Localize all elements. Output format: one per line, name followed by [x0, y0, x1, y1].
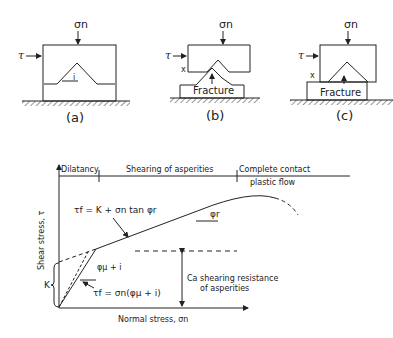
region-dilatancy: Dilatancy — [61, 165, 99, 174]
caption-c: (c) — [336, 108, 353, 123]
y-axis-label: Shear stress, τ — [37, 210, 46, 270]
caption-a: (a) — [66, 110, 84, 125]
caption-b: (b) — [206, 108, 224, 123]
k-label: K — [44, 280, 51, 290]
fracture-label: Fracture — [320, 87, 361, 98]
shear-normal-graph: Shear stress, τ Normal stress, σn Dilata… — [37, 165, 350, 324]
normal-stress-label: σn — [219, 18, 233, 31]
x-axis-label: Normal stress, σn — [118, 315, 188, 324]
failure-diagram: σn i τ (a) σn Fracture τ x (b) σn Fractu… — [0, 0, 393, 338]
equation-lower: τf = σn(φμ + i) — [93, 288, 161, 298]
x-label: x — [310, 71, 315, 80]
normal-stress-label: σn — [74, 18, 88, 31]
angle-i-label: i — [73, 73, 75, 82]
panel-b: σn Fracture τ x (b) — [165, 18, 260, 123]
region-complete: Complete contact — [239, 165, 310, 174]
shear-label: τ — [298, 49, 305, 62]
equation-upper: τf = K + σn tan φr — [74, 205, 157, 215]
angle-mu-label: φμ + i — [97, 263, 121, 272]
normal-stress-label: σn — [344, 18, 358, 31]
region-plastic: plastic flow — [250, 178, 296, 187]
ca-label-2: of asperities — [200, 284, 249, 293]
fracture-label: Fracture — [193, 85, 234, 96]
shear-label: τ — [18, 49, 25, 62]
panel-a: σn i τ (a) — [18, 18, 130, 125]
angle-r-label: φr — [210, 209, 220, 219]
ca-label: Ca shearing resistance — [187, 274, 278, 283]
shear-label: τ — [165, 49, 172, 62]
x-label: x — [181, 65, 186, 74]
region-shearing: Shearing of asperities — [126, 165, 213, 174]
panel-c: σn Fracture τ x (c) — [290, 18, 393, 123]
